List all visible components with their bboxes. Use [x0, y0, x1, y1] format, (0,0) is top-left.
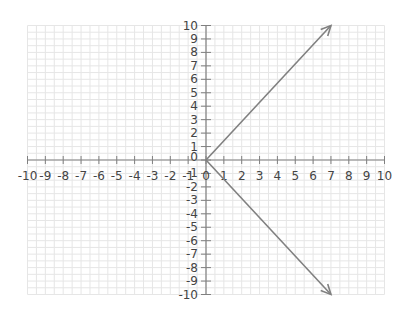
x-tick-label: 8 — [345, 169, 353, 183]
x-tick-label: 4 — [274, 169, 282, 183]
x-tick-label: -9 — [39, 169, 51, 183]
y-tick-label: 8 — [190, 45, 198, 59]
x-tick-label: 9 — [363, 169, 371, 183]
y-tick-label: 2 — [190, 126, 198, 140]
y-tick-label: 9 — [190, 32, 198, 46]
y-tick-label: 6 — [190, 72, 198, 86]
y-tick-label: 0 — [190, 150, 198, 164]
x-tick-label: 6 — [309, 169, 317, 183]
x-tick-label: 10 — [377, 169, 392, 183]
y-tick-label: 3 — [190, 113, 198, 127]
x-tick-label: -7 — [75, 169, 87, 183]
y-tick-label: -3 — [186, 193, 198, 207]
y-tick-label: -9 — [186, 274, 198, 288]
y-tick-label: -2 — [186, 180, 198, 194]
y-tick-label: -10 — [178, 288, 198, 302]
y-tick-label: -5 — [186, 220, 198, 234]
x-tick-label: -5 — [111, 169, 123, 183]
y-tick-label: -4 — [186, 207, 198, 221]
y-tick-label: 5 — [190, 86, 198, 100]
y-tick-label: 4 — [190, 99, 198, 113]
y-tick-label: -6 — [186, 234, 198, 248]
x-tick-label: 0 — [202, 169, 210, 183]
x-tick-label: -10 — [18, 169, 38, 183]
coordinate-plane: -10-9-8-7-6-5-4-3-2-1012345678910 -10-9-… — [0, 0, 412, 312]
x-tick-label: 3 — [256, 169, 264, 183]
x-tick-label: 2 — [238, 169, 246, 183]
y-tick-label: -8 — [186, 261, 198, 275]
x-tick-label: -4 — [129, 169, 141, 183]
x-tick-label: -8 — [57, 169, 69, 183]
y-tick-label: 10 — [183, 19, 198, 33]
x-tick-label: -2 — [164, 169, 176, 183]
y-tick-label: -1 — [186, 166, 198, 180]
x-tick-label: -6 — [93, 169, 105, 183]
x-tick-label: -3 — [146, 169, 158, 183]
x-tick-label: 7 — [327, 169, 335, 183]
x-tick-label: 5 — [291, 169, 299, 183]
y-tick-label: -7 — [186, 247, 198, 261]
x-tick-labels: -10-9-8-7-6-5-4-3-2-1012345678910 — [18, 169, 392, 183]
y-tick-label: 7 — [190, 59, 198, 73]
